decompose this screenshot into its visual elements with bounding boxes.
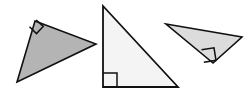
geometry-figure-canvas <box>0 0 251 94</box>
right-shaded-right-triangle <box>166 24 242 63</box>
left-shaded-right-triangle <box>17 21 96 82</box>
triangles-diagram <box>0 0 251 94</box>
middle-light-right-triangle <box>103 6 178 87</box>
